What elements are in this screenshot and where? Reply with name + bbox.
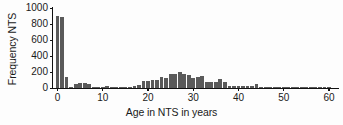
y-tick-mark bbox=[50, 40, 53, 41]
x-axis-title: Age in NTS in years bbox=[0, 106, 343, 118]
bar bbox=[241, 86, 245, 88]
y-tick-label: 1000 bbox=[26, 2, 48, 13]
bar bbox=[268, 87, 272, 88]
x-tick-label: 20 bbox=[142, 92, 153, 103]
x-tick-mark bbox=[193, 88, 194, 91]
bar bbox=[273, 87, 277, 88]
bar bbox=[291, 87, 295, 88]
bar bbox=[78, 83, 82, 88]
bar bbox=[105, 86, 109, 88]
x-tick-label: 30 bbox=[188, 92, 199, 103]
bar bbox=[160, 77, 164, 88]
bar bbox=[295, 87, 299, 88]
bar bbox=[182, 74, 186, 88]
bar bbox=[255, 84, 259, 88]
bar bbox=[164, 78, 168, 88]
bar bbox=[151, 80, 155, 88]
bar bbox=[237, 86, 241, 88]
y-tick-label: 600 bbox=[31, 34, 48, 45]
bar bbox=[146, 81, 150, 88]
y-tick-label: 0 bbox=[42, 82, 48, 93]
bar bbox=[69, 87, 73, 88]
bar bbox=[114, 87, 118, 88]
bar bbox=[318, 87, 322, 88]
bar bbox=[142, 81, 146, 88]
x-tick-mark bbox=[102, 88, 103, 91]
bar bbox=[56, 16, 60, 88]
y-axis-title: Frequency NTS bbox=[6, 6, 18, 92]
y-tick-mark bbox=[50, 24, 53, 25]
x-tick-mark bbox=[147, 88, 148, 91]
y-tick-label: 800 bbox=[31, 18, 48, 29]
x-tick-mark bbox=[283, 88, 284, 91]
x-tick-mark bbox=[238, 88, 239, 91]
bar bbox=[92, 87, 96, 88]
bar bbox=[277, 87, 281, 88]
x-tick-label: 0 bbox=[55, 92, 61, 103]
bar bbox=[250, 86, 254, 88]
bar bbox=[209, 82, 213, 88]
x-tick-label: 40 bbox=[233, 92, 244, 103]
bar bbox=[178, 72, 182, 88]
bar bbox=[214, 82, 218, 88]
bar bbox=[286, 87, 290, 88]
bar bbox=[228, 86, 232, 88]
bar bbox=[323, 87, 327, 88]
plot-area: 02004006008001000 0102030405060 bbox=[53, 8, 338, 88]
x-tick-mark bbox=[328, 88, 329, 91]
bar bbox=[309, 87, 313, 88]
bar bbox=[196, 77, 200, 88]
x-tick-mark bbox=[57, 88, 58, 91]
bar bbox=[169, 74, 173, 88]
bar bbox=[327, 87, 331, 88]
x-tick-label: 60 bbox=[323, 92, 334, 103]
bar bbox=[264, 87, 268, 88]
bar bbox=[218, 79, 222, 88]
bar bbox=[246, 86, 250, 88]
bar bbox=[65, 77, 69, 88]
x-tick-label: 50 bbox=[278, 92, 289, 103]
bar bbox=[133, 86, 137, 88]
y-tick-label: 200 bbox=[31, 66, 48, 77]
bar bbox=[60, 17, 64, 88]
x-tick-label: 10 bbox=[97, 92, 108, 103]
y-tick-mark bbox=[50, 72, 53, 73]
bar bbox=[232, 86, 236, 88]
y-tick-mark bbox=[50, 8, 53, 9]
bar bbox=[119, 87, 123, 88]
bar bbox=[155, 80, 159, 88]
bar bbox=[123, 87, 127, 88]
bar bbox=[74, 84, 78, 88]
bar bbox=[191, 78, 195, 88]
bar bbox=[313, 87, 317, 88]
bar bbox=[101, 87, 105, 88]
bar bbox=[83, 83, 87, 88]
bar bbox=[96, 87, 100, 88]
bar-chart: Frequency NTS Age in NTS in years 020040… bbox=[0, 0, 343, 125]
y-tick-label: 400 bbox=[31, 50, 48, 61]
bar bbox=[87, 84, 91, 88]
bar bbox=[200, 76, 204, 88]
bar bbox=[137, 85, 141, 88]
y-tick-mark bbox=[50, 88, 53, 89]
bar bbox=[304, 87, 308, 88]
y-tick-mark bbox=[50, 56, 53, 57]
bar bbox=[223, 82, 227, 88]
bar bbox=[259, 87, 263, 88]
bar bbox=[282, 87, 286, 88]
bar bbox=[128, 87, 132, 88]
bar bbox=[173, 74, 177, 88]
bar bbox=[110, 87, 114, 88]
bar bbox=[205, 82, 209, 88]
bar bbox=[187, 75, 191, 88]
bar bbox=[300, 87, 304, 88]
